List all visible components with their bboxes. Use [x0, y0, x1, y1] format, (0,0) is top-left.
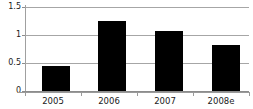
x-axis-label-2005: 2005	[25, 96, 81, 106]
plot-area	[25, 7, 249, 91]
bar-2006	[98, 21, 126, 91]
y-axis-label-2: 1	[16, 31, 21, 39]
x-axis-label-2006: 2006	[81, 96, 137, 106]
gridline-1.0	[25, 35, 249, 36]
bar-chart: 1.5 1 0.5 0 2005 2006 2007 2008e	[0, 0, 253, 109]
bar-2007	[155, 31, 183, 91]
bar-2005	[42, 66, 70, 91]
bar-2008e	[212, 45, 240, 91]
y-axis-label-3: 1.5	[8, 3, 21, 11]
y-axis-label-1: 0.5	[8, 59, 21, 67]
y-axis-label-0: 0	[16, 87, 21, 95]
gridline-1.5	[25, 7, 249, 8]
x-axis-label-2008e: 2008e	[193, 96, 249, 106]
x-axis-line	[18, 92, 249, 93]
x-axis-label-2007: 2007	[137, 96, 193, 106]
x-axis-tick-4	[249, 92, 250, 96]
